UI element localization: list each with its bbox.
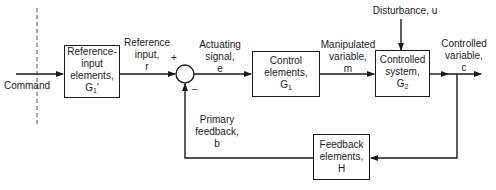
block-symbol: G1 <box>264 79 307 94</box>
summing-junction <box>176 65 194 83</box>
reference-input-label: Reference input, r <box>122 37 172 73</box>
disturbance-label: Disturbance, u <box>370 5 440 17</box>
block-label: Control <box>264 55 307 67</box>
block-symbol: G2 <box>380 78 426 93</box>
block-label: elements, <box>264 67 307 79</box>
feedback-elements-block: Feedback elements, H <box>313 134 370 180</box>
block-label: Feedback <box>320 139 364 151</box>
block-label: Reference- <box>67 46 116 58</box>
block-label: system, <box>380 66 426 78</box>
minus-sign: − <box>190 84 200 96</box>
controlled-system-block: Controlled system, G2 <box>375 50 430 97</box>
controlled-variable-label: Controlled variable, c <box>434 38 494 74</box>
block-label: elements, <box>67 70 116 82</box>
manipulated-variable-label: Manipulated variable, m <box>318 39 378 75</box>
actuating-signal-label: Actuating signal, e <box>195 39 245 75</box>
plus-sign: + <box>169 52 179 64</box>
control-elements-block: Control elements, G1 <box>252 51 320 97</box>
command-label: Command <box>2 80 52 92</box>
reference-input-elements-block: Reference- input elements, G1' <box>64 45 120 98</box>
primary-feedback-label: Primary feedback, b <box>192 114 242 150</box>
block-symbol: H <box>320 163 364 175</box>
block-symbol: G1' <box>67 82 116 97</box>
block-label: input <box>67 58 116 70</box>
block-label: Controlled <box>380 54 426 66</box>
block-label: elements, <box>320 151 364 163</box>
